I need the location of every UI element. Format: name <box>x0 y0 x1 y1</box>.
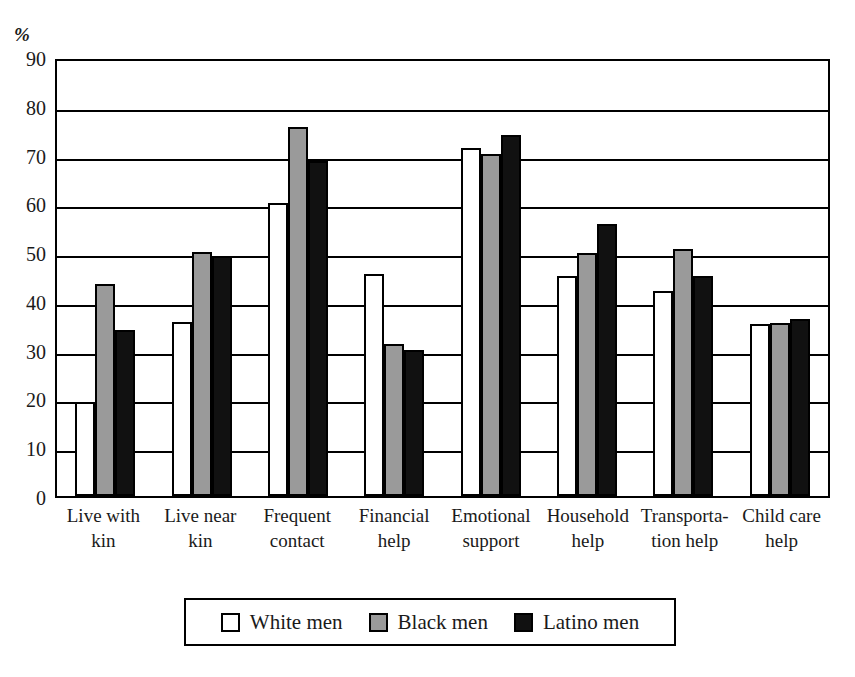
bar <box>95 284 115 496</box>
y-axis-tick-labels: 9080706050403020100 <box>0 59 46 498</box>
x-category-label-line: help <box>348 528 441 553</box>
x-category-label-line: Transporta- <box>641 505 729 526</box>
y-tick-label: 50 <box>4 244 46 264</box>
bar-group <box>346 61 442 496</box>
y-axis-unit-label: % <box>14 24 30 46</box>
bar <box>75 402 95 496</box>
x-category-label-line: Financial <box>359 505 430 526</box>
bar <box>770 323 790 496</box>
plot-area <box>55 59 830 498</box>
bar-group <box>57 61 153 496</box>
bar <box>404 350 424 496</box>
bar-groups <box>57 61 828 496</box>
bar <box>673 249 693 496</box>
x-category-label-line: Household <box>547 505 629 526</box>
y-tick-label: 30 <box>4 342 46 362</box>
x-category-label: Live nearkin <box>152 503 249 565</box>
x-category-label-line: tion help <box>638 528 731 553</box>
y-tick-label: 0 <box>4 488 46 508</box>
legend-label: Black men <box>398 610 488 635</box>
x-category-label: Householdhelp <box>539 503 636 565</box>
x-category-label: Financialhelp <box>346 503 443 565</box>
legend-swatch-icon <box>221 613 240 632</box>
bar <box>557 276 577 496</box>
bar <box>461 148 481 496</box>
bar <box>268 203 288 496</box>
y-tick-label: 70 <box>4 147 46 167</box>
bar-chart: % 9080706050403020100 Live withkinLive n… <box>0 0 855 677</box>
legend-swatch-icon <box>514 613 533 632</box>
bar <box>481 154 501 496</box>
x-category-label-line: support <box>445 528 538 553</box>
bar <box>653 291 673 496</box>
x-category-label: Transporta-tion help <box>636 503 733 565</box>
bar-group <box>250 61 346 496</box>
bar <box>308 161 328 496</box>
legend-item[interactable]: Black men <box>369 610 488 635</box>
bar <box>693 276 713 496</box>
legend-label: Latino men <box>543 610 639 635</box>
x-category-label: Live withkin <box>55 503 152 565</box>
x-category-label-line: help <box>735 528 828 553</box>
x-category-label-line: Live with <box>67 505 140 526</box>
bar-group <box>635 61 731 496</box>
y-tick-label: 40 <box>4 293 46 313</box>
bar <box>597 224 617 496</box>
bar <box>288 127 308 496</box>
legend-item[interactable]: Latino men <box>514 610 639 635</box>
bar-group <box>153 61 249 496</box>
x-category-label: Emotionalsupport <box>443 503 540 565</box>
legend-label: White men <box>250 610 343 635</box>
x-category-label: Frequentcontact <box>249 503 346 565</box>
x-category-label-line: kin <box>154 528 247 553</box>
y-tick-label: 10 <box>4 439 46 459</box>
y-tick-label: 90 <box>4 49 46 69</box>
x-category-label: Child carehelp <box>733 503 830 565</box>
x-category-label-line: Emotional <box>451 505 530 526</box>
bar <box>384 344 404 496</box>
bar <box>364 274 384 496</box>
y-tick-label: 60 <box>4 195 46 215</box>
bar <box>172 322 192 496</box>
bar-group <box>539 61 635 496</box>
y-tick-label: 20 <box>4 390 46 410</box>
x-category-label-line: Frequent <box>263 505 331 526</box>
chart-legend: White menBlack menLatino men <box>184 598 676 646</box>
x-axis-category-labels: Live withkinLive nearkinFrequentcontactF… <box>55 503 830 565</box>
x-category-label-line: contact <box>251 528 344 553</box>
x-category-label-line: Live near <box>164 505 236 526</box>
legend-swatch-icon <box>369 613 388 632</box>
bar <box>750 324 770 496</box>
x-category-label-line: help <box>541 528 634 553</box>
bar <box>577 253 597 496</box>
bar-group <box>443 61 539 496</box>
bar <box>790 319 810 496</box>
y-tick-label: 80 <box>4 98 46 118</box>
legend-item[interactable]: White men <box>221 610 343 635</box>
x-category-label-line: kin <box>57 528 150 553</box>
x-category-label-line: Child care <box>742 505 821 526</box>
bar <box>192 252 212 496</box>
bar <box>115 330 135 496</box>
bar-group <box>732 61 828 496</box>
bar <box>212 256 232 496</box>
bar <box>501 135 521 496</box>
